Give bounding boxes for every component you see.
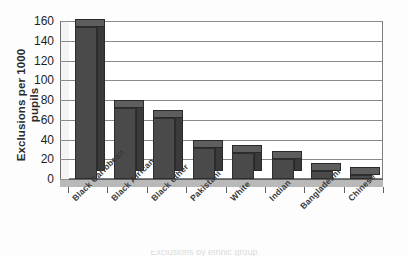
bar-top-face bbox=[272, 151, 302, 159]
y-tick-label: 120 bbox=[20, 56, 54, 66]
axis-wall-rung bbox=[60, 80, 69, 81]
y-tick-label: 40 bbox=[20, 135, 54, 145]
y-tick-label: 60 bbox=[20, 115, 54, 125]
bar-top-face bbox=[193, 140, 223, 148]
x-tick-mark bbox=[68, 187, 69, 193]
bar-top-face bbox=[75, 19, 105, 27]
axis-wall-rung bbox=[60, 100, 69, 101]
bar-top-face bbox=[153, 110, 183, 118]
bar bbox=[114, 100, 136, 179]
x-tick-mark bbox=[226, 187, 227, 193]
y-tick-label: 140 bbox=[20, 36, 54, 46]
x-tick-mark bbox=[265, 187, 266, 193]
axis-wall-rung bbox=[60, 61, 69, 62]
x-tick-mark bbox=[344, 187, 345, 193]
x-tick-mark bbox=[304, 187, 305, 193]
cutoff-caption-text: Exclusions by ethnic group bbox=[0, 250, 408, 256]
axis-wall-rung bbox=[60, 140, 69, 141]
bar-front-face bbox=[272, 159, 294, 179]
y-tick-label: 160 bbox=[20, 16, 54, 26]
axis-wall-rung bbox=[60, 41, 69, 42]
y-tick-label: 20 bbox=[20, 154, 54, 164]
chart-figure: Exclusions per 1000 pupils 0204060801001… bbox=[0, 0, 408, 256]
axis-wall-rung bbox=[60, 120, 69, 121]
bar bbox=[153, 110, 175, 179]
bar-top-face bbox=[114, 100, 144, 108]
y-axis-ticks: 020406080100120140160 bbox=[20, 0, 54, 256]
gridline bbox=[68, 80, 383, 81]
bar-front-face bbox=[232, 153, 254, 179]
bar-front-face bbox=[114, 108, 136, 179]
bar-top-face bbox=[350, 167, 380, 175]
gridline bbox=[68, 41, 383, 42]
axis-wall-rung bbox=[60, 179, 69, 180]
axis-wall-rung bbox=[60, 159, 69, 160]
bar bbox=[75, 19, 97, 179]
bar bbox=[232, 145, 254, 179]
cutoff-caption: Exclusions by ethnic group bbox=[0, 250, 408, 256]
gridline bbox=[68, 61, 383, 62]
y-tick-label: 100 bbox=[20, 75, 54, 85]
y-tick-label: 0 bbox=[20, 174, 54, 184]
x-tick-mark bbox=[107, 187, 108, 193]
gridline bbox=[68, 21, 383, 22]
bar-top-face bbox=[232, 145, 262, 153]
axis-wall-rung bbox=[60, 21, 69, 22]
y-tick-label: 80 bbox=[20, 95, 54, 105]
bar-front-face bbox=[153, 118, 175, 179]
bar-front-face bbox=[75, 27, 97, 179]
bar bbox=[272, 151, 294, 179]
x-tick-mark bbox=[186, 187, 187, 193]
x-tick-mark bbox=[383, 187, 384, 193]
bar-side-face bbox=[97, 19, 105, 171]
x-tick-mark bbox=[147, 187, 148, 193]
